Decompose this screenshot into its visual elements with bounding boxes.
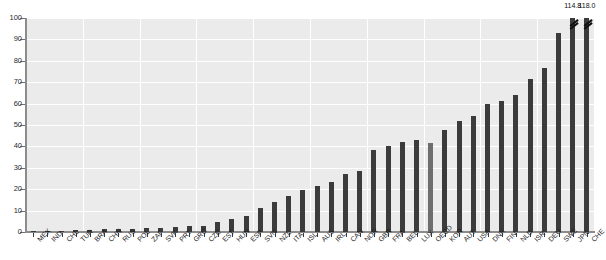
- bar: [315, 186, 320, 232]
- y-axis-tick-label: 50: [0, 121, 22, 129]
- bar: [584, 18, 589, 232]
- y-axis-tick-label: 30: [0, 164, 22, 172]
- gridline-vertical: [196, 18, 197, 232]
- y-axis-tick-label: 40: [0, 142, 22, 150]
- gridline-vertical: [140, 18, 141, 232]
- gridline-vertical: [83, 18, 84, 232]
- gridline-vertical: [480, 18, 481, 232]
- x-axis-tick: [33, 233, 34, 237]
- bar: [400, 142, 405, 232]
- y-axis-tick-label: 100: [0, 14, 22, 22]
- y-axis-tick-label: 80: [0, 57, 22, 65]
- bar: [499, 101, 504, 232]
- y-axis-tick-label: 10: [0, 207, 22, 215]
- bar: [329, 182, 334, 232]
- gridline-vertical: [537, 18, 538, 232]
- gridline-vertical: [424, 18, 425, 232]
- bar: [528, 79, 533, 232]
- y-axis-tick-label: 20: [0, 185, 22, 193]
- bar: [570, 18, 575, 232]
- y-axis-tick-label: 60: [0, 100, 22, 108]
- bar: [542, 68, 547, 232]
- bar: [471, 116, 476, 232]
- y-axis-tick-label: 0: [0, 228, 22, 236]
- y-axis-line: [25, 18, 27, 233]
- bar: [556, 33, 561, 232]
- plot-area: [26, 18, 594, 232]
- bar-value-label: 118.0: [573, 2, 601, 10]
- bar: [414, 140, 419, 232]
- y-axis-tick-label: 70: [0, 78, 22, 86]
- bar: [457, 121, 462, 232]
- bar: [371, 150, 376, 232]
- bar: [513, 95, 518, 232]
- bar: [343, 174, 348, 232]
- y-axis-tick-label: 90: [0, 35, 22, 43]
- bar: [442, 130, 447, 232]
- gridline-vertical: [310, 18, 311, 232]
- bar: [300, 190, 305, 232]
- bar: [357, 171, 362, 232]
- bar: [428, 143, 433, 232]
- bar: [286, 196, 291, 232]
- bar: [31, 231, 36, 232]
- bar: [386, 146, 391, 232]
- gridline-vertical: [253, 18, 254, 232]
- bar: [485, 104, 490, 232]
- gridline-vertical: [367, 18, 368, 232]
